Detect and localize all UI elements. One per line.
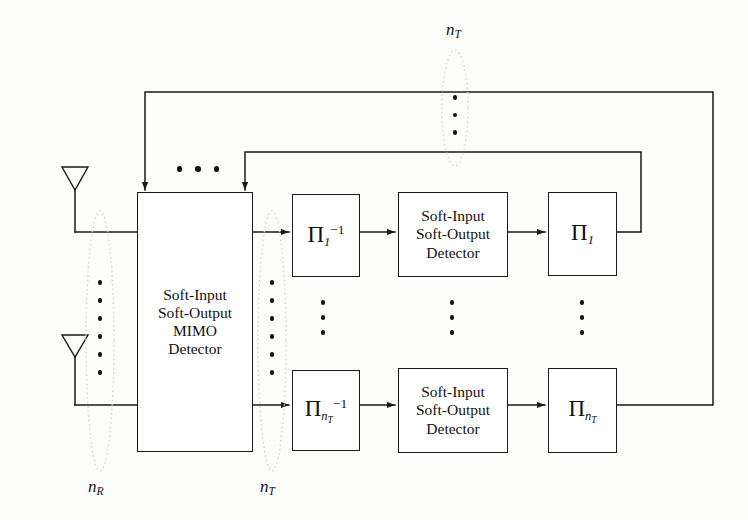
label-n-r: nR bbox=[88, 477, 104, 497]
receive-antenna-bottom bbox=[62, 335, 88, 405]
mimo-line-1: Soft-Input bbox=[158, 286, 232, 304]
siso-first-line-3: Detector bbox=[416, 244, 490, 262]
label-n-t-output: nT bbox=[260, 477, 275, 497]
block-interleaver-last[interactable]: ΠnT bbox=[548, 368, 617, 453]
label-n-t-feedback: nT bbox=[446, 20, 461, 40]
block-deinterleaver-first[interactable]: Π1−1 bbox=[292, 194, 360, 277]
interleaver-last-symbol: ΠnT bbox=[568, 396, 596, 424]
block-siso-detector-last[interactable]: Soft-Input Soft-Output Detector bbox=[398, 368, 508, 453]
mimo-line-2: Soft-Output bbox=[158, 304, 232, 322]
deinterleaver-first-symbol: Π1−1 bbox=[307, 222, 344, 250]
block-mimo-detector[interactable]: Soft-Input Soft-Output MIMO Detector bbox=[137, 192, 253, 452]
ellipsis-receive-bundle bbox=[97, 280, 103, 375]
figure-canvas: Soft-Input Soft-Output MIMO Detector Π1−… bbox=[0, 0, 748, 520]
ellipsis-column-deinterleavers bbox=[320, 300, 326, 335]
block-deinterleaver-last[interactable]: ΠnT−1 bbox=[292, 370, 360, 451]
siso-last-line-1: Soft-Input bbox=[416, 383, 490, 401]
ellipsis-column-detectors bbox=[449, 300, 455, 335]
siso-first-line-1: Soft-Input bbox=[416, 207, 490, 225]
ellipsis-top-row bbox=[177, 166, 219, 172]
siso-first-line-2: Soft-Output bbox=[416, 225, 490, 243]
ellipsis-transmit-bundle bbox=[269, 280, 275, 375]
block-interleaver-first[interactable]: Π1 bbox=[548, 192, 617, 276]
diagram-wires bbox=[0, 0, 748, 520]
ellipsis-feedback-bundle bbox=[452, 95, 458, 135]
ellipsis-column-interleavers bbox=[579, 300, 585, 335]
deinterleaver-last-symbol: ΠnT−1 bbox=[305, 396, 348, 424]
siso-last-line-2: Soft-Output bbox=[416, 401, 490, 419]
mimo-line-4: Detector bbox=[158, 340, 232, 358]
block-siso-detector-first[interactable]: Soft-Input Soft-Output Detector bbox=[398, 192, 508, 277]
mimo-line-3: MIMO bbox=[158, 322, 232, 340]
siso-last-line-3: Detector bbox=[416, 420, 490, 438]
interleaver-first-symbol: Π1 bbox=[571, 220, 594, 248]
receive-antenna-top bbox=[62, 167, 88, 232]
